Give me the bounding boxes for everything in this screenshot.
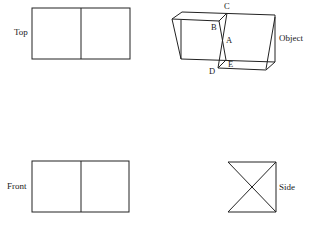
front-view-label: Front [7,182,27,191]
point-c-label: C [224,2,230,11]
side-view-label: Side [279,183,295,192]
point-a-label: A [226,36,232,45]
point-b-label: B [211,23,217,32]
orthographic-diagram: Top Front Side Object C B A D E [0,0,310,227]
point-e-label: E [228,60,233,69]
object-label: Object [279,34,303,43]
side-view [228,162,276,212]
object-view [172,12,275,70]
diagram-drawing [0,0,310,227]
top-view-label: Top [14,28,28,37]
front-view [32,161,129,212]
point-d-label: D [209,67,215,76]
top-view [32,8,130,59]
